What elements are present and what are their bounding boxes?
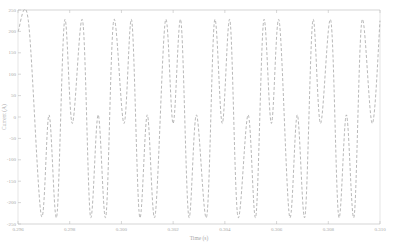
y-tick-label: 250 <box>9 8 17 13</box>
x-tick-label: 0.300 <box>116 227 128 232</box>
x-axis-label: Time (s) <box>190 235 209 242</box>
y-tick-label: -50 <box>9 136 16 141</box>
y-tick-label: -250 <box>7 222 17 227</box>
x-tick-label: 0.302 <box>168 227 180 232</box>
y-tick-label: 200 <box>9 29 17 34</box>
y-axis-label: Current (A) <box>1 104 8 130</box>
y-tick-label: -100 <box>7 157 17 162</box>
y-axis-ticks: 250200150100500-50-100-150-200-250 <box>7 8 21 227</box>
current-waveform-chart: 250200150100500-50-100-150-200-250 0.296… <box>0 0 393 248</box>
y-tick-label: 100 <box>9 72 17 77</box>
y-tick-label: 0 <box>14 115 17 120</box>
x-tick-label: 0.296 <box>12 227 24 232</box>
x-tick-label: 0.306 <box>271 227 283 232</box>
x-axis-ticks: 0.2960.2980.3000.3020.3040.3060.3080.310 <box>12 10 386 232</box>
y-tick-label: 150 <box>9 50 17 55</box>
y-tick-label: 50 <box>11 93 17 98</box>
x-tick-label: 0.310 <box>374 227 386 232</box>
plot-frame <box>18 10 380 224</box>
current-series-line <box>18 9 380 218</box>
y-tick-label: -150 <box>7 179 17 184</box>
y-tick-label: -200 <box>7 200 17 205</box>
x-tick-label: 0.304 <box>219 227 231 232</box>
x-tick-label: 0.308 <box>323 227 335 232</box>
x-tick-label: 0.298 <box>64 227 76 232</box>
